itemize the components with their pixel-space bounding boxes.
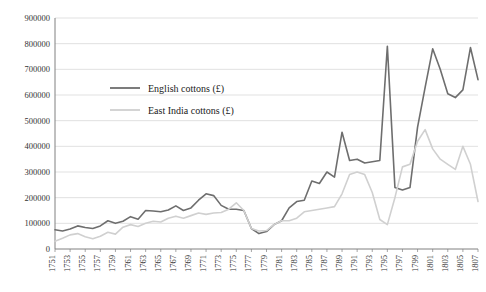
x-tick-label: 1807 [470,255,480,272]
x-tick-label: 1791 [349,255,359,272]
x-tick-label: 1751 [47,255,57,272]
x-tick-label: 1761 [123,255,133,272]
chart-legend: English cottons (£)East India cottons (£… [110,83,234,117]
x-tick-label: 1785 [304,255,314,272]
x-tick-label: 1755 [77,255,87,272]
y-tick-label: 500000 [25,116,51,126]
x-tick-label: 1797 [394,255,404,272]
y-tick-label: 700000 [25,64,51,74]
x-tick-label: 1767 [168,255,178,272]
data-series [55,46,478,241]
x-tick-label: 1781 [274,255,284,272]
x-tick-label: 1793 [364,255,374,272]
x-tick-label: 1765 [153,255,163,272]
x-tick-label: 1763 [138,255,148,272]
x-tick-label: 1787 [319,255,329,272]
x-tick-label: 1779 [259,255,269,272]
x-tick-label: 1801 [425,255,435,272]
y-tick-label: 0 [46,244,50,254]
y-tick-label: 200000 [25,193,51,203]
y-tick-label: 800000 [25,39,51,49]
x-tick-label: 1773 [213,255,223,272]
x-tick-label: 1769 [183,255,193,272]
x-tick-label: 1777 [243,255,253,272]
x-axis-tick-labels: 1751175317551757175917611763176517671769… [47,255,480,272]
axis-lines [55,18,478,252]
line-chart: 0100000200000300000400000500000600000700… [0,0,486,292]
y-tick-label: 600000 [25,90,51,100]
x-tick-label: 1753 [62,255,72,272]
y-tick-label: 300000 [25,167,51,177]
x-tick-label: 1759 [107,255,117,272]
x-tick-label: 1803 [440,255,450,272]
x-tick-label: 1805 [455,255,465,272]
series-line-english-cottons [55,46,478,233]
x-tick-label: 1783 [289,255,299,272]
x-tick-label: 1799 [410,255,420,272]
x-tick-label: 1775 [228,255,238,272]
y-tick-label: 100000 [25,218,51,228]
chart-container: 0100000200000300000400000500000600000700… [0,0,486,292]
y-axis-tick-labels: 0100000200000300000400000500000600000700… [25,13,51,254]
x-tick-label: 1795 [379,255,389,272]
legend-label: English cottons (£) [148,83,224,95]
x-tick-label: 1789 [334,255,344,272]
y-tick-label: 900000 [25,13,51,23]
y-tick-label: 400000 [25,141,51,151]
x-tick-label: 1757 [92,255,102,272]
legend-label: East India cottons (£) [148,105,234,117]
gridlines [55,18,478,223]
x-tick-label: 1771 [198,255,208,272]
